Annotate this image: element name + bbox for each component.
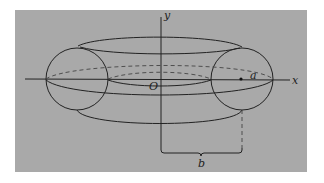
torus-diagram: y x O a b <box>0 0 324 183</box>
x-axis-label: x <box>292 74 299 87</box>
tube-radius-label: a <box>250 69 257 82</box>
tube-center-dot <box>239 77 242 80</box>
origin-label: O <box>149 80 158 93</box>
y-axis-label: y <box>163 9 171 22</box>
center-distance-label: b <box>198 157 205 170</box>
